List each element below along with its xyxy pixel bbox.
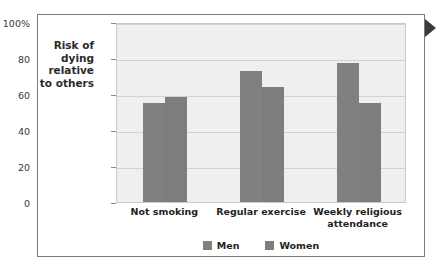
y-axis-tick-mark bbox=[111, 95, 116, 96]
y-axis-tick-label: 40 bbox=[0, 126, 30, 137]
y-axis-tick-label: 0 bbox=[0, 198, 30, 209]
y-axis-tick-mark bbox=[111, 59, 116, 60]
bar bbox=[143, 103, 165, 202]
legend: MenWomen bbox=[116, 240, 406, 251]
y-axis-tick-mark bbox=[111, 167, 116, 168]
legend-swatch bbox=[203, 241, 212, 250]
legend-label: Men bbox=[217, 240, 240, 251]
y-axis-title-line: Risk of bbox=[14, 39, 94, 52]
y-axis-title-line: to others bbox=[14, 77, 94, 90]
y-axis-tick-label: 20 bbox=[0, 162, 30, 173]
bar-series-container bbox=[117, 24, 405, 202]
triangle-right-icon bbox=[425, 19, 436, 37]
y-axis-tick-label: 80 bbox=[0, 54, 30, 65]
legend-label: Women bbox=[279, 240, 319, 251]
legend-item[interactable]: Women bbox=[265, 240, 319, 251]
y-axis-tick-mark bbox=[111, 203, 116, 204]
bar bbox=[337, 63, 359, 202]
x-axis-category-line: attendance bbox=[298, 218, 418, 230]
y-axis-tick-mark bbox=[111, 23, 116, 24]
bar bbox=[165, 97, 187, 202]
y-axis-tick-label: 60 bbox=[0, 90, 30, 101]
x-axis-category-label: Weekly religiousattendance bbox=[298, 206, 418, 229]
plot-area bbox=[116, 23, 406, 203]
y-axis-tick-mark bbox=[111, 131, 116, 132]
bar bbox=[359, 103, 381, 202]
legend-item[interactable]: Men bbox=[203, 240, 240, 251]
y-axis-tick-label: 100% bbox=[0, 18, 30, 29]
legend-swatch bbox=[265, 241, 274, 250]
x-axis-category-line: Weekly religious bbox=[298, 206, 418, 218]
y-axis-title-line: relative bbox=[14, 64, 94, 77]
bar bbox=[240, 71, 262, 202]
bar bbox=[262, 87, 284, 202]
figure: Risk of dying relative to others 0204060… bbox=[0, 0, 448, 277]
